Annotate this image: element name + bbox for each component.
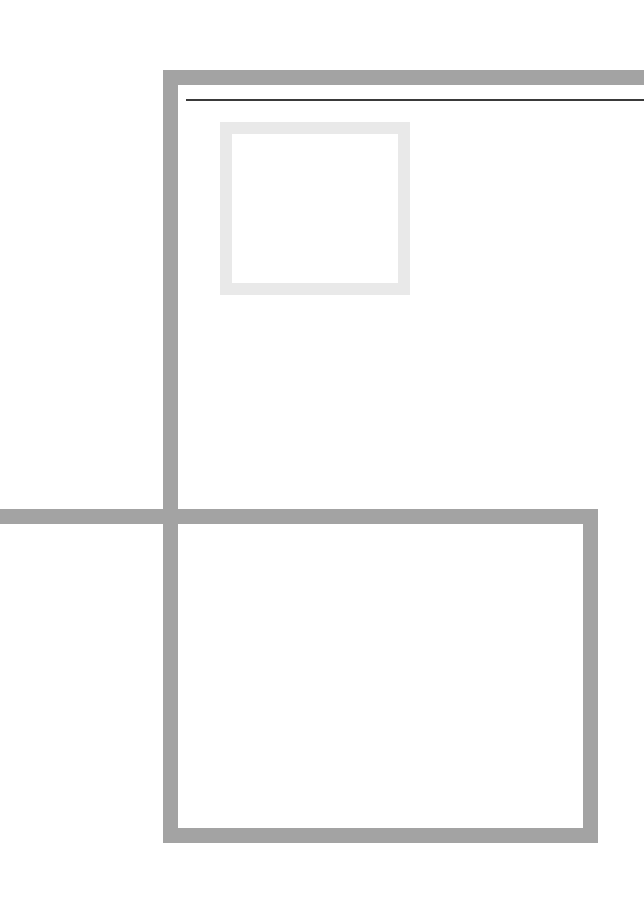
frame-border-left [163, 70, 178, 843]
frame-border-bottom [163, 828, 598, 843]
hairline-rule [186, 99, 644, 101]
horizontal-divider [0, 509, 598, 524]
margin-left [0, 0, 163, 509]
margin-footer [163, 843, 644, 913]
frame-border-right [583, 509, 598, 843]
margin-bottom-left [0, 524, 163, 913]
zoomed-ui-viewport [0, 0, 644, 913]
frame-border-top [163, 70, 644, 85]
lower-content-panel [178, 524, 583, 828]
placeholder-square-outline [220, 122, 410, 295]
